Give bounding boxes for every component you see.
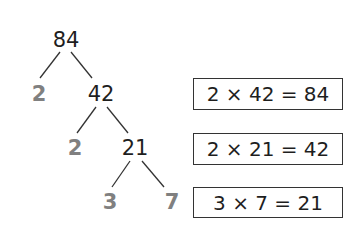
tree-node-prime: 2 [68, 138, 83, 159]
tree-node-prime: 7 [165, 192, 180, 213]
edge-42-21 [107, 107, 128, 133]
edge-84-42 [71, 52, 92, 78]
edge-21-3 [112, 161, 130, 187]
edge-42-2 [77, 107, 96, 133]
tree-node-prime: 2 [32, 84, 47, 105]
tree-node-prime: 3 [103, 192, 118, 213]
tree-node-composite: 21 [122, 138, 149, 159]
edge-84-2 [40, 52, 60, 78]
edge-21-7 [142, 161, 164, 187]
equation-box: 2 × 21 = 42 [193, 133, 343, 165]
equation-box: 2 × 42 = 84 [193, 78, 343, 110]
tree-node-root: 84 [53, 30, 80, 51]
tree-node-composite: 42 [88, 84, 115, 105]
equation-box: 3 × 7 = 21 [193, 187, 343, 218]
